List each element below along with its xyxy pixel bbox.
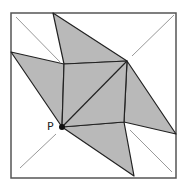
point-p-marker [59,124,65,130]
point-p-label: P [47,120,54,133]
geometry-figure: P [0,0,184,185]
